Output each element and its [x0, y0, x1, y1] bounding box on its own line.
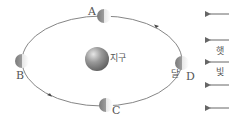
moon-icon-a [97, 9, 111, 23]
earth-label: 지구 [110, 54, 126, 63]
moon-icon-b [15, 54, 29, 68]
moon-icon-d [175, 56, 189, 70]
sunlight-label-bottom: 빛 [216, 68, 224, 77]
sunlight-label-top: 햇 [216, 47, 224, 56]
moon-icon-c [99, 98, 113, 112]
earth-icon [85, 47, 109, 71]
position-label-d: D [186, 71, 195, 82]
position-label-b: B [16, 70, 24, 81]
moon-label: 달 [171, 70, 179, 79]
sunlight-arrows [210, 14, 229, 108]
position-label-a: A [88, 6, 96, 17]
position-label-c: C [112, 105, 120, 116]
